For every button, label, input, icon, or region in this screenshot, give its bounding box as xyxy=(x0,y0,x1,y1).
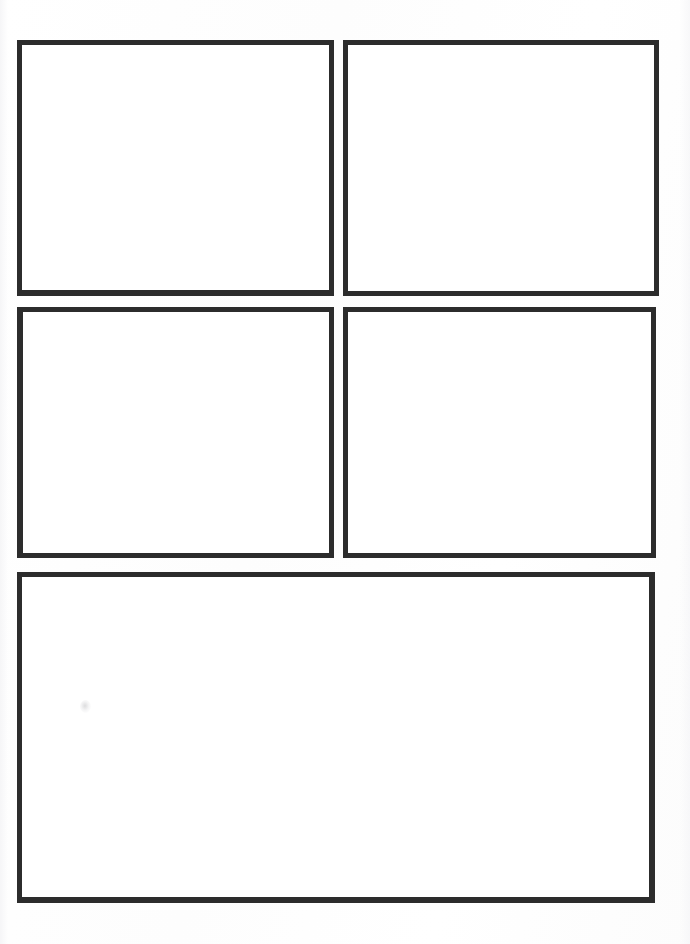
comic-panel-5[interactable] xyxy=(17,572,655,903)
comic-panel-5-content xyxy=(22,577,649,897)
comic-panel-2[interactable] xyxy=(343,40,659,296)
comic-panel-3-content xyxy=(23,312,329,553)
comic-panel-4[interactable] xyxy=(343,307,656,558)
comic-panel-1[interactable] xyxy=(17,40,334,296)
comic-template-page xyxy=(0,0,690,944)
comic-panel-3[interactable] xyxy=(17,307,334,558)
comic-panel-4-content xyxy=(348,312,651,553)
comic-panel-1-content xyxy=(22,45,329,290)
right-edge-shading xyxy=(680,0,690,944)
comic-panel-2-content xyxy=(348,45,654,291)
left-edge-shading xyxy=(0,0,8,944)
